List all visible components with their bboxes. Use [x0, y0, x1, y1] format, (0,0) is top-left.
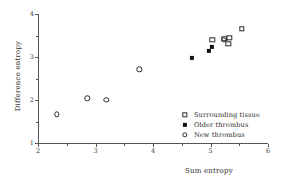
data-point: [210, 37, 215, 42]
legend-swatch: [182, 132, 187, 137]
scatter-plot-figure: 23456 1234 Sum entropy Difference entrop…: [0, 0, 286, 185]
y-tick-minor: [36, 36, 38, 37]
data-point: [54, 111, 59, 116]
y-tick-label: 1: [26, 139, 34, 147]
data-point: [85, 96, 90, 101]
x-tick-label: 6: [266, 147, 270, 155]
legend-label: New thrombus: [194, 131, 245, 139]
data-point: [189, 56, 193, 60]
legend-item: New thrombus: [180, 130, 260, 140]
y-tick-major: [35, 143, 38, 144]
y-tick-label: 4: [26, 10, 34, 18]
x-tick-minor: [239, 144, 240, 146]
y-tick-major: [35, 14, 38, 15]
legend-item: Older thrombus: [180, 120, 260, 130]
y-tick-major: [35, 100, 38, 101]
legend-label: Older thrombus: [194, 121, 248, 129]
x-axis-label: Sum entropy: [185, 167, 233, 175]
x-tick-minor: [124, 144, 125, 146]
data-point: [207, 49, 211, 53]
y-tick-label: 2: [26, 96, 34, 104]
x-tick-label: 4: [151, 147, 155, 155]
legend-label: Surrounding tissue: [194, 111, 260, 119]
x-tick-label: 2: [36, 147, 40, 155]
y-tick-label: 3: [26, 53, 34, 61]
y-tick-minor: [36, 122, 38, 123]
legend-item: Surrounding tissue: [180, 110, 260, 120]
x-tick-label: 3: [93, 147, 97, 155]
data-point: [104, 97, 109, 102]
data-point: [136, 67, 141, 72]
legend-swatch: [183, 123, 187, 127]
y-axis-label: Difference entropy: [14, 36, 22, 116]
data-point: [226, 41, 231, 46]
data-point: [227, 35, 232, 40]
y-tick-major: [35, 57, 38, 58]
x-tick-label: 5: [208, 147, 212, 155]
marker-filled-square-icon: [180, 120, 190, 130]
data-point: [210, 45, 214, 49]
x-tick-minor: [67, 144, 68, 146]
marker-open-square-icon: [180, 110, 190, 120]
legend-swatch: [182, 112, 187, 117]
marker-open-circle-icon: [180, 130, 190, 140]
data-point: [239, 26, 244, 31]
y-axis-line: [38, 14, 39, 144]
y-tick-minor: [36, 79, 38, 80]
legend: Surrounding tissueOlder thrombusNew thro…: [180, 110, 260, 140]
x-tick-minor: [182, 144, 183, 146]
